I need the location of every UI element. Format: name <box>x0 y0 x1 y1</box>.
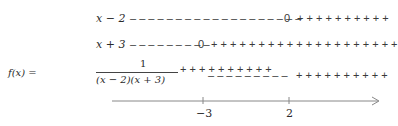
tick-label-minus-3: −3 <box>196 107 212 120</box>
tick-label-2: 2 <box>286 107 293 120</box>
